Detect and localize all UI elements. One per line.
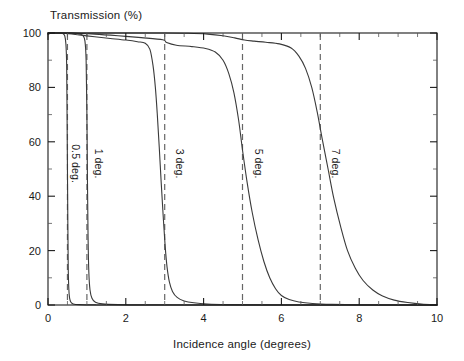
x-axis-title: Incidence angle (degrees)	[173, 338, 311, 350]
y-tick-label-80: 80	[29, 81, 41, 93]
y-axis-title: Transmission (%)	[50, 9, 142, 21]
x-tick-label-10: 10	[431, 312, 443, 324]
x-tick-label-2: 2	[123, 312, 129, 324]
y-tick-label-40: 40	[29, 190, 41, 202]
y-tick-label-60: 60	[29, 136, 41, 148]
curve-annotations-group: 0.5 deg.1 deg.3 deg.5 deg.7 deg.	[70, 144, 342, 183]
y-tick-label-0: 0	[35, 299, 41, 311]
x-tick-label-6: 6	[278, 312, 284, 324]
x-tick-label-8: 8	[356, 312, 362, 324]
chart-canvas: 0246810 020406080100 0.5 deg.1 deg.3 deg…	[0, 0, 464, 361]
x-tick-label-0: 0	[45, 312, 51, 324]
y-tick-label-100: 100	[23, 27, 41, 39]
x-tick-label-4: 4	[201, 312, 207, 324]
annotation-0-5-deg-: 0.5 deg.	[70, 144, 82, 183]
x-tick-labels-group: 0246810	[45, 312, 443, 324]
annotation-5-deg-: 5 deg.	[253, 149, 265, 179]
annotation-7-deg-: 7 deg.	[330, 149, 342, 179]
annotation-3-deg-: 3 deg.	[174, 149, 186, 179]
y-tick-labels-group: 020406080100	[23, 27, 41, 311]
transmission-vs-incidence-angle-chart: 0246810 020406080100 0.5 deg.1 deg.3 deg…	[0, 0, 464, 361]
annotation-1-deg-: 1 deg.	[93, 149, 105, 179]
y-tick-label-20: 20	[29, 245, 41, 257]
